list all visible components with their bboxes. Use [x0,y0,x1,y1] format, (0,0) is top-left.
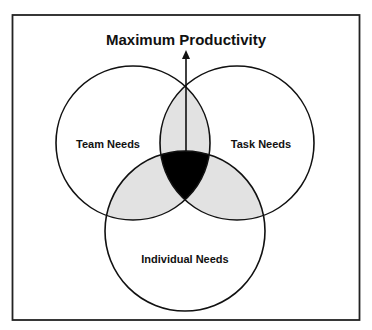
diagram-title: Maximum Productivity [106,31,267,48]
label-individual-needs: Individual Needs [141,253,228,265]
arrow-up-icon [182,50,190,59]
venn-diagram: Maximum Productivity Team Needs Task Nee… [0,0,372,330]
label-team-needs: Team Needs [76,138,140,150]
label-task-needs: Task Needs [231,138,291,150]
